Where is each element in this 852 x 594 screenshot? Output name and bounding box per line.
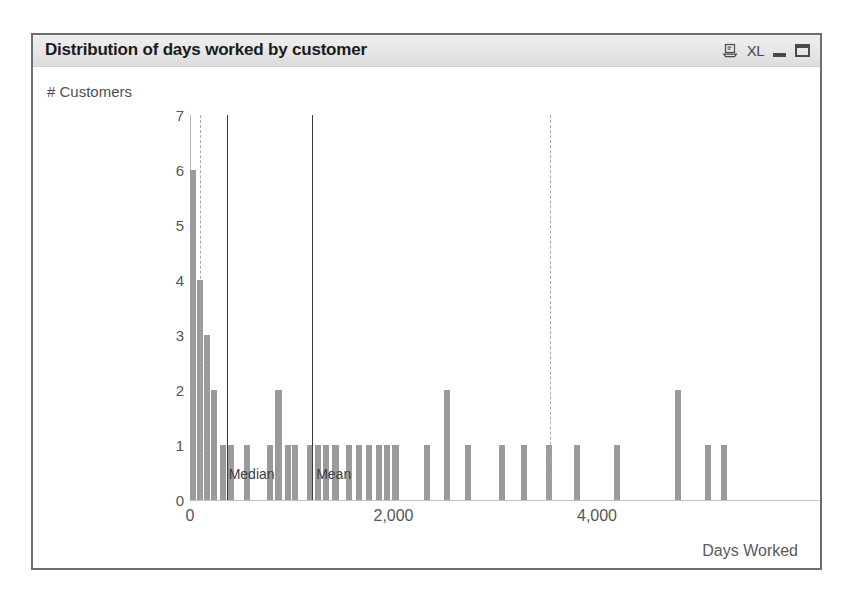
histogram-bar[interactable] — [292, 445, 298, 500]
plot-area: 01234567 MedianMean 02,0004,000 — [33, 67, 820, 570]
window-title: Distribution of days worked by customer — [45, 40, 367, 60]
histogram-bar[interactable] — [392, 445, 398, 500]
histogram-bar[interactable] — [444, 390, 450, 500]
histogram-bar[interactable] — [574, 445, 580, 500]
histogram-bar[interactable] — [275, 390, 281, 500]
histogram-bar[interactable] — [465, 445, 471, 500]
bars-layer — [33, 67, 820, 500]
reference-line-mean — [312, 115, 313, 500]
window-titlebar: Distribution of days worked by customer … — [33, 35, 820, 67]
histogram-bar[interactable] — [220, 445, 226, 500]
histogram-bar[interactable] — [376, 445, 382, 500]
screenshot-root: Distribution of days worked by customer … — [0, 0, 852, 594]
histogram-bar[interactable] — [675, 390, 681, 500]
histogram-bar[interactable] — [356, 445, 362, 500]
histogram-bar[interactable] — [721, 445, 727, 500]
x-axis-tick-label: 0 — [186, 507, 195, 525]
print-clipboard-icon[interactable] — [723, 40, 738, 60]
histogram-bar[interactable] — [384, 445, 390, 500]
histogram-bar[interactable] — [366, 445, 372, 500]
histogram-bar[interactable] — [190, 170, 196, 500]
histogram-bar[interactable] — [546, 445, 552, 500]
minimize-icon[interactable] — [773, 40, 786, 60]
chart-body: # Customers 01234567 MedianMean 02,0004,… — [33, 67, 820, 568]
x-axis-title: Days Worked — [702, 542, 798, 560]
histogram-bar[interactable] — [424, 445, 430, 500]
histogram-bar[interactable] — [285, 445, 291, 500]
histogram-bar[interactable] — [499, 445, 505, 500]
histogram-bar[interactable] — [211, 390, 217, 500]
maximize-icon[interactable] — [795, 40, 810, 60]
reference-line-upper-dashed — [550, 115, 551, 500]
histogram-bar[interactable] — [705, 445, 711, 500]
reference-label: Mean — [316, 466, 351, 482]
histogram-bar[interactable] — [614, 445, 620, 500]
histogram-bar[interactable] — [521, 445, 527, 500]
reference-line-median — [227, 115, 228, 500]
reference-line-lower-dashed — [200, 115, 201, 500]
x-axis-tick-label: 4,000 — [577, 507, 617, 525]
x-axis-line — [190, 500, 820, 501]
chart-window: Distribution of days worked by customer … — [31, 33, 822, 570]
x-axis-tick-label: 2,000 — [373, 507, 413, 525]
histogram-bar[interactable] — [204, 335, 210, 500]
excel-export-icon[interactable]: XL — [747, 40, 764, 60]
reference-label: Median — [229, 466, 275, 482]
window-controls: XL — [723, 39, 810, 61]
